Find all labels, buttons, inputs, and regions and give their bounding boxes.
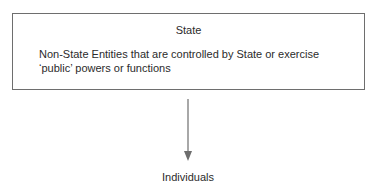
- individuals-label: Individuals: [0, 171, 367, 183]
- state-title: State: [13, 24, 364, 36]
- down-arrow-icon: [182, 99, 194, 163]
- state-box: State Non-State Entities that are contro…: [12, 13, 365, 90]
- non-state-entities-text: Non-State Entities that are controlled b…: [39, 47, 344, 75]
